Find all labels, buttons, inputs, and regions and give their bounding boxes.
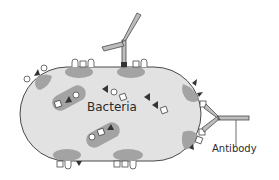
bacteria-antibody-diagram: Bacteria Antibody <box>0 0 279 180</box>
antibody-top <box>102 13 141 67</box>
antibody-label: Antibody <box>212 143 257 154</box>
surface-antigens-bottom <box>57 161 136 169</box>
surface-antigens-top <box>72 59 147 67</box>
antibody-right <box>202 104 249 132</box>
bacteria-label: Bacteria <box>87 100 137 114</box>
